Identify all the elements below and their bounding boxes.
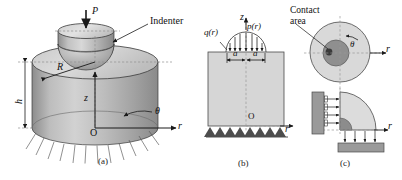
label-contact-area-line1: Contact <box>290 6 320 16</box>
label-traction-qr: q(r) <box>204 28 218 37</box>
caption-panel-c: (c) <box>340 158 350 168</box>
label-axis-r-top-c: r <box>386 44 390 54</box>
bottom-support-block <box>338 131 384 152</box>
label-contact-area-line2: area <box>290 17 306 27</box>
center-dot <box>326 49 333 56</box>
label-height-h: h <box>14 99 24 104</box>
left-support-block <box>312 92 339 134</box>
label-axis-r-bottom-c: r <box>388 121 392 131</box>
label-contact-a-left: a <box>233 49 238 58</box>
label-load-P: P <box>92 6 98 16</box>
caption-panel-b: (b) <box>238 158 249 168</box>
label-radius-R: R <box>57 62 63 72</box>
indenter-body <box>58 24 114 71</box>
left-support-rollers <box>325 96 328 126</box>
traction-leader-line <box>220 42 227 50</box>
indentation-figure: P Indenter R h z O θ r (a) <box>0 0 402 180</box>
label-angle-theta: θ <box>155 106 160 116</box>
label-axis-z-b: z <box>240 12 244 22</box>
panel-c: Contact area θ r r (c) <box>288 0 402 180</box>
label-pressure-pr: p(r) <box>247 22 261 31</box>
label-origin-O-b: O <box>248 112 255 121</box>
label-axis-z: z <box>84 93 88 103</box>
label-contact-a-right: a <box>253 49 258 58</box>
label-axis-r: r <box>178 121 182 131</box>
panel-c-graphic <box>288 0 402 180</box>
panel-a-graphic <box>0 0 200 180</box>
panel-a: P Indenter R h z O θ r (a) <box>0 0 200 180</box>
axisymmetric-quarter-model <box>340 92 376 130</box>
panel-b: z p(r) q(r) a a O r (b) <box>196 0 296 180</box>
caption-panel-a: (a) <box>98 156 108 166</box>
label-origin-O: O <box>90 128 97 138</box>
label-indenter: Indenter <box>150 16 183 26</box>
label-angle-theta-c: θ <box>350 40 354 49</box>
indenter-leader-line <box>113 24 148 42</box>
